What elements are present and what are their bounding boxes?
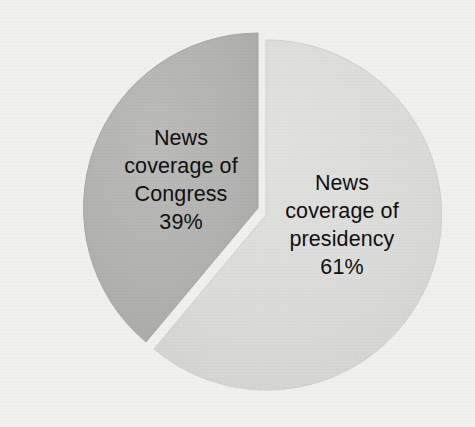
pie-label-congress-line1: News [96, 125, 266, 153]
pie-label-presidency-line3: presidency [253, 226, 431, 254]
pie-label-presidency-line1: News [253, 170, 431, 198]
pie-label-congress-value: 39% [96, 209, 266, 237]
pie-label-congress-line2: coverage of [96, 153, 266, 181]
pie-label-presidency: News coverage of presidency 61% [253, 170, 431, 282]
pie-label-congress-line3: Congress [96, 181, 266, 209]
pie-label-presidency-value: 61% [253, 254, 431, 282]
pie-label-presidency-line2: coverage of [253, 198, 431, 226]
pie-chart-figure: News coverage of Congress 39% News cover… [0, 0, 475, 427]
pie-label-congress: News coverage of Congress 39% [96, 125, 266, 237]
